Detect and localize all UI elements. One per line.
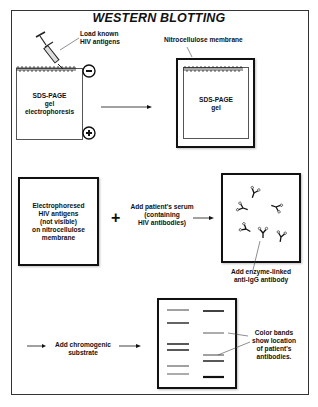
color-bands-label: Color bands show location of patient's a… <box>248 329 300 361</box>
band-pointer-lines <box>218 333 250 355</box>
